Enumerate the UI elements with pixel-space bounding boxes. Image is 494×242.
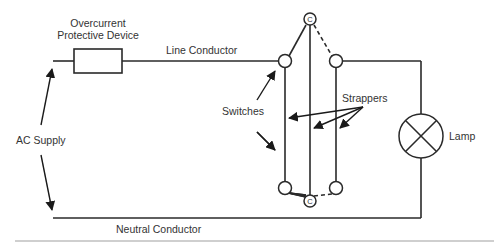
switch-2-terminal-right	[330, 182, 343, 195]
switch-1-common: C	[304, 13, 316, 25]
ac-supply-label: AC Supply	[16, 134, 66, 146]
switches-arrow-up	[257, 71, 275, 100]
lamp-label: Lamp	[449, 130, 475, 142]
overcurrent-protective-device	[74, 49, 122, 73]
line-conductor-label: Line Conductor	[166, 44, 238, 56]
strappers-label: Strappers	[342, 92, 388, 104]
switch-2-terminal-left	[279, 182, 292, 195]
common-label-top: C	[307, 15, 313, 24]
switches-label: Switches	[222, 105, 264, 117]
switch-2-common: C	[304, 195, 316, 207]
switch-1-terminal-right	[330, 55, 343, 68]
ac-supply-arrow-up	[41, 69, 52, 125]
switch-1-terminal-left	[279, 55, 292, 68]
lamp-icon	[399, 114, 443, 158]
two-way-switch-assembly	[285, 25, 336, 196]
switches-arrow-down-2	[257, 132, 275, 150]
overcurrent-label-line2: Protective Device	[57, 29, 139, 41]
overcurrent-label-line1: Overcurrent	[70, 17, 126, 29]
neutral-conductor-label: Neutral Conductor	[116, 223, 202, 235]
common-label-bottom: C	[307, 197, 313, 206]
two-way-switching-circuit-diagram: C C Overcurrent Protective Device Line C…	[0, 0, 494, 242]
ac-supply-arrow-down	[41, 155, 52, 210]
